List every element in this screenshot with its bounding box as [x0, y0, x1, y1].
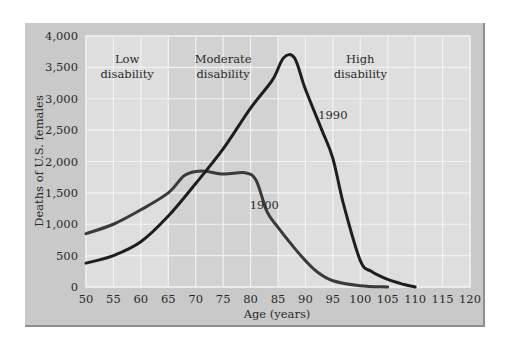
- y-tick-label: 3,500: [45, 60, 78, 74]
- x-tick-label: 110: [404, 292, 426, 306]
- y-tick-label: 4,000: [45, 29, 78, 43]
- y-tick-label: 1,000: [45, 217, 78, 231]
- x-axis-ticks: 50556065707580859095100105110115120: [79, 292, 481, 306]
- x-tick-label: 120: [459, 292, 481, 306]
- line-chart: LowdisabilityModeratedisabilityHighdisab…: [0, 0, 507, 346]
- x-tick-label: 90: [298, 292, 313, 306]
- x-tick-label: 80: [243, 292, 258, 306]
- x-tick-label: 85: [271, 292, 286, 306]
- region-label-moderate: Moderatedisability: [195, 52, 252, 81]
- x-tick-label: 105: [377, 292, 399, 306]
- x-tick-label: 60: [134, 292, 149, 306]
- series-label-1900: 1900: [250, 198, 279, 212]
- y-tick-label: 500: [56, 249, 78, 263]
- y-tick-label: 3,000: [45, 92, 78, 106]
- x-tick-label: 70: [188, 292, 203, 306]
- x-tick-label: 55: [106, 292, 121, 306]
- x-tick-label: 75: [216, 292, 231, 306]
- x-tick-label: 100: [349, 292, 371, 306]
- y-tick-label: 2,000: [45, 155, 78, 169]
- x-tick-label: 65: [161, 292, 176, 306]
- series-label-1990: 1990: [318, 108, 347, 122]
- x-axis-label: Age (years): [243, 307, 311, 321]
- y-tick-label: 2,500: [45, 123, 78, 137]
- y-tick-label: 0: [71, 280, 78, 294]
- x-tick-label: 50: [79, 292, 94, 306]
- y-axis-ticks: 05001,0001,5002,0002,5003,0003,5004,000: [45, 29, 78, 294]
- y-tick-label: 1,500: [45, 186, 78, 200]
- y-axis-label: Deaths of U.S. females: [32, 95, 46, 227]
- x-tick-label: 95: [326, 292, 341, 306]
- x-tick-label: 115: [432, 292, 454, 306]
